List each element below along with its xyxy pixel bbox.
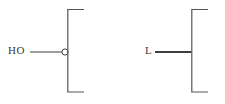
fragment-right-art (0, 0, 225, 104)
fragment-right: L (0, 0, 225, 104)
left-bracket (192, 10, 208, 93)
structure-canvas: HO L (0, 0, 225, 104)
